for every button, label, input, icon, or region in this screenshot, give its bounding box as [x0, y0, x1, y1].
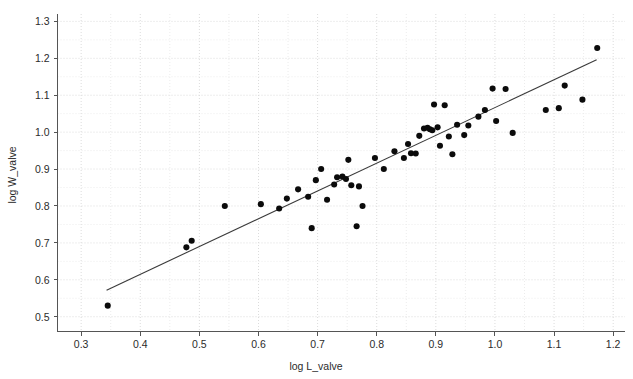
data-point	[334, 174, 340, 180]
data-point	[413, 151, 419, 157]
plot-canvas: 0.30.40.50.60.70.80.91.01.11.2 0.50.60.7…	[0, 0, 633, 379]
data-point	[475, 114, 481, 120]
data-point	[105, 303, 111, 309]
data-point	[461, 132, 467, 138]
x-tick-label: 0.3	[74, 338, 89, 350]
fit-line	[107, 60, 597, 290]
x-tick-label: 1.2	[606, 338, 621, 350]
scatter-plot-figure: 0.30.40.50.60.70.80.91.01.11.2 0.50.60.7…	[0, 0, 633, 379]
data-point	[579, 97, 585, 103]
data-point	[431, 101, 437, 107]
data-point	[359, 203, 365, 209]
y-tick-label: 0.7	[35, 237, 50, 249]
data-point	[318, 166, 324, 172]
data-point	[442, 102, 448, 108]
x-tick-label: 0.8	[369, 338, 384, 350]
data-point	[493, 118, 499, 124]
data-point	[594, 45, 600, 51]
data-point	[305, 194, 311, 200]
y-tick-label: 1.2	[35, 52, 50, 64]
data-point-group	[105, 45, 601, 309]
y-tick-label: 1.1	[35, 89, 50, 101]
data-point	[401, 155, 407, 161]
data-point	[454, 122, 460, 128]
x-tick-label: 0.4	[133, 338, 148, 350]
data-point	[446, 134, 452, 140]
x-axis-tick-labels: 0.30.40.50.60.70.80.91.01.11.2	[74, 338, 621, 350]
y-tick-label: 1.3	[35, 15, 50, 27]
data-point	[343, 176, 349, 182]
data-point	[258, 201, 264, 207]
data-point	[183, 244, 189, 250]
data-point	[372, 155, 378, 161]
data-point	[405, 141, 411, 147]
data-point	[284, 196, 290, 202]
data-point	[189, 238, 195, 244]
data-point	[465, 122, 471, 128]
data-point	[331, 182, 337, 188]
y-axis-title: log W_valve	[6, 146, 18, 203]
data-point	[348, 182, 354, 188]
x-tick-label: 1.1	[547, 338, 562, 350]
y-tick-label: 1.0	[35, 126, 50, 138]
data-point	[416, 133, 422, 139]
data-point	[435, 124, 441, 130]
x-tick-label: 0.9	[429, 338, 444, 350]
data-point	[295, 186, 301, 192]
data-point	[449, 151, 455, 157]
data-point	[429, 127, 435, 133]
data-point	[510, 130, 516, 136]
data-point	[482, 107, 488, 113]
data-point	[391, 148, 397, 154]
x-tick-label: 0.6	[251, 338, 266, 350]
y-axis-tick-labels: 0.50.60.70.80.91.01.11.21.3	[35, 15, 50, 322]
data-point	[437, 143, 443, 149]
x-tick-label: 1.0	[488, 338, 503, 350]
y-tick-label: 0.5	[35, 311, 50, 323]
x-axis-title: log L_valve	[289, 360, 342, 372]
x-tick-label: 0.5	[192, 338, 207, 350]
data-point	[324, 197, 330, 203]
data-point	[503, 86, 509, 92]
data-point	[543, 107, 549, 113]
data-point	[490, 86, 496, 92]
x-tick-label: 0.7	[310, 338, 325, 350]
major-gridline-group	[58, 14, 626, 332]
data-point	[276, 206, 282, 212]
data-point	[356, 183, 362, 189]
y-tick-label: 0.8	[35, 200, 50, 212]
data-point	[313, 177, 319, 183]
axes-group	[54, 14, 626, 336]
data-point	[556, 105, 562, 111]
data-point	[222, 203, 228, 209]
regression-line	[107, 60, 597, 290]
data-point	[562, 83, 568, 89]
minor-gridline-group	[58, 14, 626, 332]
y-tick-label: 0.9	[35, 163, 50, 175]
data-point	[345, 157, 351, 163]
data-point	[309, 225, 315, 231]
y-tick-label: 0.6	[35, 274, 50, 286]
data-point	[381, 166, 387, 172]
data-point	[354, 223, 360, 229]
